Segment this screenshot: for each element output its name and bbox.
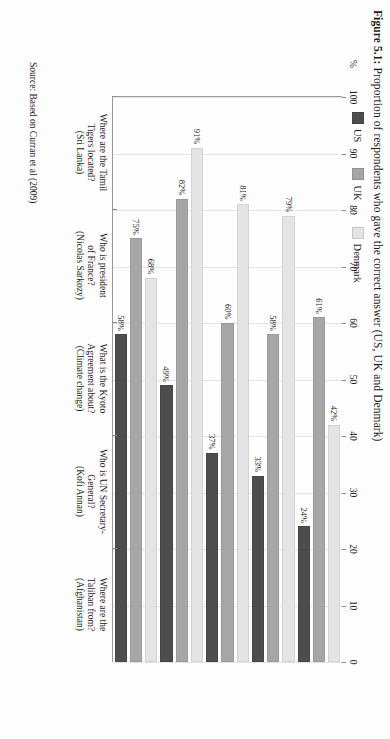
category-axis-tick <box>112 435 117 436</box>
category-label-line: (Climate change) <box>74 322 86 435</box>
bar-value-label: 58% <box>116 312 126 331</box>
axis-tick-mark <box>342 267 346 268</box>
bar-value-label: 49% <box>161 363 171 382</box>
bar-value-label: 24% <box>299 504 309 523</box>
bar-value-label: 91% <box>192 126 202 145</box>
gridline <box>113 662 342 663</box>
bar-row: 60% <box>221 97 233 662</box>
category-label-line: of France? <box>85 209 97 322</box>
bar-group: 79%58%33% <box>250 97 296 662</box>
axis-tick-label: 60 <box>348 318 358 328</box>
bar-row: 33% <box>252 97 264 662</box>
bar-uk <box>130 238 142 662</box>
bar-denmark <box>328 425 340 662</box>
axis-tick-label: 30 <box>348 488 358 498</box>
category-label-line: Taliban from? <box>85 548 97 661</box>
category-label-line: Who is president <box>97 209 109 322</box>
bar-uk <box>221 323 233 662</box>
category-label: Who is presidentof France?(Nicolas Sarko… <box>74 209 109 322</box>
category-label-line: Where are the Tamil <box>97 96 109 209</box>
category-label-line: Where are the <box>97 548 109 661</box>
bar-value-label: 61% <box>314 295 324 314</box>
bar-value-label: 68% <box>146 256 156 275</box>
legend-swatch-icon <box>352 112 364 124</box>
bar-value-label: 60% <box>223 301 233 320</box>
bar-row: 82% <box>176 97 188 662</box>
category-axis-tick <box>112 209 117 210</box>
axis-tick-label: 50 <box>348 375 358 385</box>
category-label: What is the KyotoAgreement about?(Climat… <box>74 322 109 435</box>
bar-row: 75% <box>130 97 142 662</box>
axis-tick-mark <box>342 323 346 324</box>
bar-uk <box>313 317 325 662</box>
figure-number: Figure 5.1: <box>372 10 384 65</box>
axis-tick-mark <box>342 662 346 663</box>
bar-row: 79% <box>282 97 294 662</box>
bar-us <box>298 526 310 662</box>
category-label-line: What is the Kyoto <box>97 322 109 435</box>
legend-item-us: US <box>352 112 364 142</box>
category-axis-tick <box>112 548 117 549</box>
figure-source: Source: Based on Curran et al (2009) <box>28 62 38 203</box>
axis-tick-mark <box>342 154 346 155</box>
chart-plot-area: % 100908070605040302010042%61%24%79%58%3… <box>70 62 342 662</box>
bar-us <box>252 476 264 662</box>
bar-us <box>206 453 218 662</box>
bar-value-label: 79% <box>284 194 294 213</box>
bar-row: 37% <box>206 97 218 662</box>
y-axis-title: % <box>348 60 358 68</box>
axis-tick-label: 20 <box>348 544 358 554</box>
category-label: Where are the TamilTigers located?(Sri L… <box>74 96 109 209</box>
legend-swatch-icon <box>352 227 364 239</box>
bar-row: 58% <box>267 97 279 662</box>
bar-denmark <box>282 216 294 662</box>
category-axis-labels: Where are the TamilTigers located?(Sri L… <box>70 96 112 662</box>
bar-value-label: 33% <box>253 454 263 473</box>
bar-row: 24% <box>298 97 310 662</box>
bar-denmark <box>191 148 203 662</box>
bar-row: 68% <box>145 97 157 662</box>
axis-tick-label: 70 <box>348 262 358 272</box>
axis-tick-label: 0 <box>348 660 358 665</box>
bar-row: 42% <box>328 97 340 662</box>
bar-value-label: 82% <box>177 177 187 196</box>
axis-tick-label: 100 <box>348 90 358 104</box>
axis-tick-mark <box>342 493 346 494</box>
bar-uk <box>267 334 279 662</box>
category-label: Who is UN Secretary-General?(Kofi Annan) <box>74 435 109 548</box>
category-label-line: (Sri Lanka) <box>74 96 86 209</box>
category-label-line: (Kofi Annan) <box>74 435 86 548</box>
category-label-line: (Nicolas Sarkozy) <box>74 209 86 322</box>
axis-tick-mark <box>342 380 346 381</box>
bar-value-label: 75% <box>131 216 141 235</box>
bar-value-label: 58% <box>268 312 278 331</box>
bar-uk <box>176 199 188 662</box>
bar-row: 91% <box>191 97 203 662</box>
bar-group: 91%82%49% <box>159 97 205 662</box>
bar-value-label: 37% <box>207 431 217 450</box>
category-axis-tick <box>112 322 117 323</box>
figure-caption: Figure 5.1: Proportion of respondents wh… <box>372 10 384 730</box>
axis-tick-label: 40 <box>348 431 358 441</box>
bar-denmark <box>237 204 249 662</box>
bar-us <box>160 385 172 662</box>
bar-us <box>115 334 127 662</box>
legend-item-denmark: Denmark <box>352 227 364 283</box>
axis-tick-mark <box>342 97 346 98</box>
legend-label: UK <box>353 185 364 200</box>
category-label-line: General? <box>85 435 97 548</box>
bar-value-label: 81% <box>238 182 248 201</box>
category-label: Where are theTaliban from?(Afghanistan) <box>74 548 109 661</box>
legend-swatch-icon <box>352 168 364 180</box>
category-label-line: Tigers located? <box>85 96 97 209</box>
bar-row: 58% <box>115 97 127 662</box>
legend-item-uk: UK <box>352 168 364 200</box>
figure-caption-text: Proportion of respondents who gave the c… <box>372 68 384 442</box>
axis-tick-mark <box>342 436 346 437</box>
bar-group: 68%75%58% <box>113 97 159 662</box>
axis-tick-label: 80 <box>348 205 358 215</box>
axis-tick-mark <box>342 210 346 211</box>
bar-denmark <box>145 278 157 662</box>
legend-label: US <box>353 129 364 142</box>
axis-tick-mark <box>342 549 346 550</box>
